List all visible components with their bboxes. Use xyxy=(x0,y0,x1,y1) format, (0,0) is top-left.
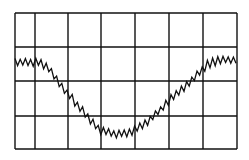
oscilloscope-chart xyxy=(0,0,249,160)
grid xyxy=(15,13,237,149)
